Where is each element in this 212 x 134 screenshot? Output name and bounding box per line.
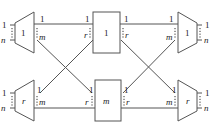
port-label: 1: [124, 85, 129, 95]
switch-bottom-left: 1 n r 1 m: [1, 80, 46, 121]
port-label: m: [166, 97, 173, 107]
port-label: 1: [169, 14, 174, 24]
port-label: 1: [40, 14, 45, 24]
port-label: m: [166, 32, 173, 42]
port-label: 1: [37, 85, 42, 95]
port-label: 1: [172, 85, 177, 95]
node-label: r: [186, 96, 190, 106]
node-label: 1: [104, 28, 109, 38]
port-label: 1: [85, 14, 90, 24]
port-label: n: [1, 35, 6, 45]
port-label: m: [39, 97, 46, 107]
port-label: 1: [205, 88, 210, 98]
wire-bl-tc: [40, 40, 93, 93]
wire-tl-bc: [37, 40, 92, 93]
port-label: r: [84, 30, 88, 40]
port-label: n: [1, 103, 6, 113]
port-label: 1: [89, 85, 94, 95]
port-label: r: [126, 97, 130, 107]
switch-bottom-center: 1 r m 1 r: [85, 80, 130, 121]
node-label: r: [22, 96, 26, 106]
switch-top-right: 1 m 1 1 n: [166, 12, 210, 53]
node-label: m: [103, 96, 110, 106]
switch-top-left: 1 n 1 1 m: [1, 12, 46, 53]
port-label: r: [125, 30, 129, 40]
port-label: 1: [205, 20, 210, 30]
port-label: 1: [2, 20, 7, 30]
port-label: 1: [2, 88, 7, 98]
clos-network-diagram: 1 n 1 1 m 1 r 1 1 r 1 m 1 1 n 1 n r: [0, 0, 212, 134]
port-label: m: [39, 32, 46, 42]
node-label: 1: [185, 28, 190, 38]
port-label: n: [204, 35, 209, 45]
port-label: n: [204, 103, 209, 113]
switch-top-center: 1 r 1 1 r: [84, 12, 129, 53]
node-label: 1: [21, 28, 26, 38]
switch-bottom-right: 1 m r 1 n: [166, 80, 210, 121]
port-label: r: [85, 97, 89, 107]
port-label: 1: [124, 14, 129, 24]
